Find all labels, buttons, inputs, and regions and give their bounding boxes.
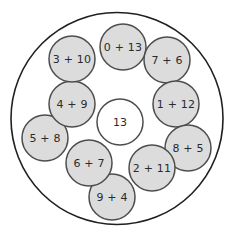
center-node-label: 13 [113, 116, 127, 129]
ring-node: 7 + 6 [144, 37, 190, 83]
ring-node: 1 + 12 [153, 81, 199, 127]
ring-node-label: 8 + 5 [172, 142, 203, 155]
ring-node-label: 4 + 9 [56, 98, 87, 111]
ring-node: 4 + 9 [49, 81, 95, 127]
ring-node: 3 + 10 [49, 36, 95, 82]
ring-node-label: 0 + 13 [104, 41, 142, 54]
center-node: 13 [97, 99, 143, 145]
ring-node-label: 5 + 8 [29, 132, 60, 145]
ring-node-label: 7 + 6 [151, 54, 182, 67]
circle-arrangement-diagram: 0 + 137 + 61 + 128 + 52 + 119 + 46 + 75 … [0, 0, 234, 242]
diagram-container: 0 + 137 + 61 + 128 + 52 + 119 + 46 + 75 … [0, 0, 234, 242]
ring-node: 0 + 13 [100, 24, 146, 70]
ring-node: 2 + 11 [129, 145, 175, 191]
ring-node-label: 9 + 4 [96, 191, 127, 204]
ring-node-label: 6 + 7 [73, 157, 104, 170]
ring-node-label: 2 + 11 [133, 162, 171, 175]
ring-node-label: 1 + 12 [157, 98, 195, 111]
ring-node: 6 + 7 [66, 140, 112, 186]
ring-node-label: 3 + 10 [53, 53, 91, 66]
